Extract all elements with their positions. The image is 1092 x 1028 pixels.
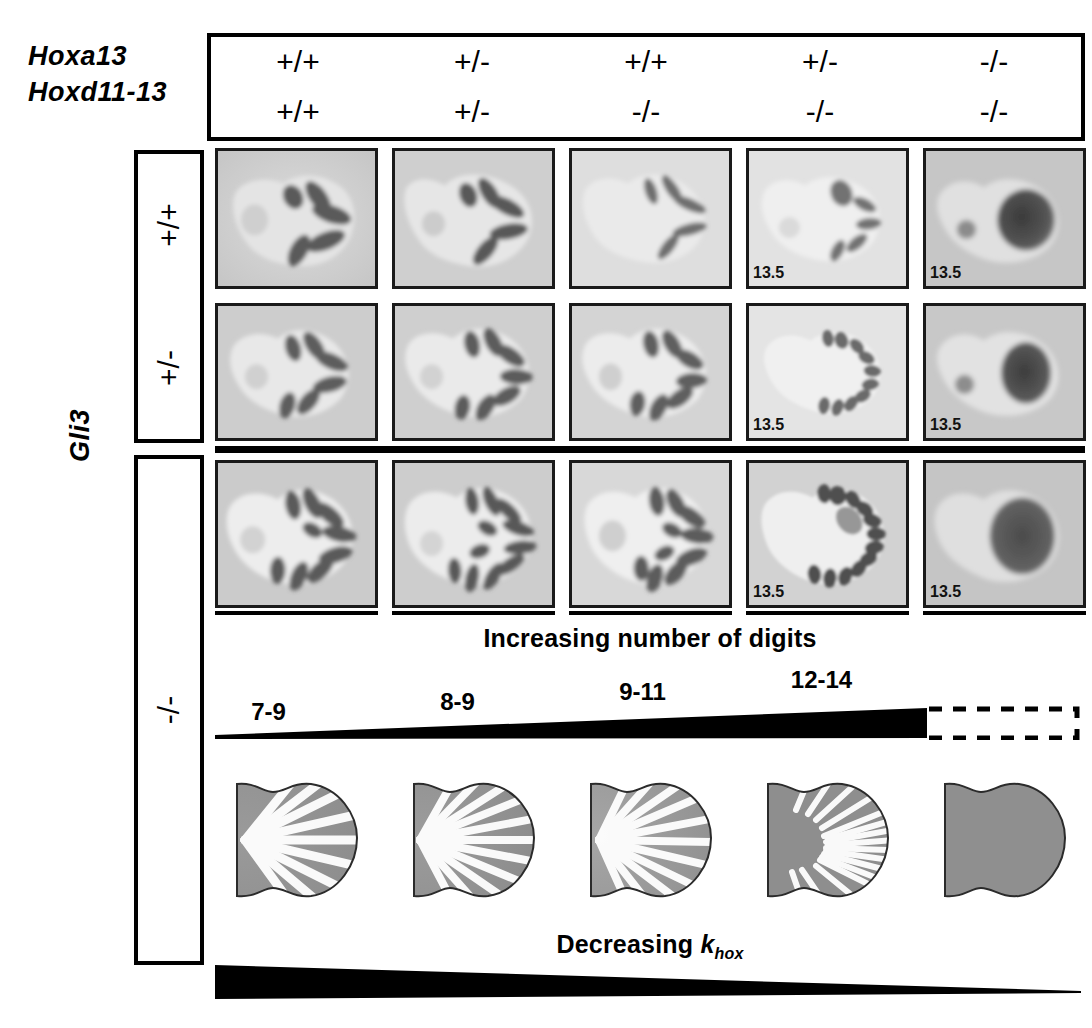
khox-symbol: k: [700, 930, 714, 958]
genotype-header-grid: +/+ +/- +/+ +/- -/- +/+ +/- -/- -/- -/-: [211, 37, 1081, 137]
gli3-row-label-het-text: +/-: [154, 350, 184, 386]
digits-caption: Increasing number of digits: [215, 624, 1085, 653]
limb-panel-r3c3: [569, 460, 732, 608]
limb-panel-r2c4: 13.5: [746, 303, 909, 441]
gene-label-hoxa13: Hoxa13: [28, 38, 208, 74]
stage-label-r3c5: 13.5: [930, 583, 961, 601]
genotype-hoxd-col4: -/-: [806, 97, 834, 127]
limb-panel-r1c3: [569, 148, 732, 289]
genotype-hoxd-col2: +/-: [454, 97, 490, 127]
stage-label-r3c4: 13.5: [753, 583, 784, 601]
stage-label-r1c4: 13.5: [753, 264, 784, 282]
gli3-row-label-wt: +/+: [138, 154, 200, 297]
khox-caption: Decreasing khox: [215, 930, 1085, 963]
simulation-panel-2: [392, 752, 555, 920]
decreasing-khox-wedge: [215, 963, 1085, 1007]
gli3-row-label-het: +/-: [138, 297, 200, 440]
simulation-panel-1: [215, 752, 378, 920]
column-underline-5: [923, 611, 1086, 615]
genotype-hoxa13-col5: -/-: [980, 47, 1008, 77]
stage-label-r1c5: 13.5: [930, 264, 961, 282]
increasing-digits-wedge: [215, 694, 1085, 740]
gene-row-labels: Hoxa13 Hoxd11-13: [28, 38, 208, 110]
simulation-row: [215, 752, 1085, 920]
simulation-panel-4: [746, 752, 909, 920]
column-underlines: [215, 611, 1085, 615]
limb-panel-r3c1: [215, 460, 378, 608]
gli3-axis-label-text: Gli3: [66, 408, 97, 461]
separator-rule-below-row2: [215, 446, 1085, 453]
limb-panel-r2c3: [569, 303, 732, 441]
genotype-hoxd-col5: -/-: [980, 97, 1008, 127]
stage-label-r2c4: 13.5: [753, 416, 784, 434]
simulation-panel-3: [569, 752, 732, 920]
limb-panel-r2c5: 13.5: [923, 303, 1086, 441]
column-underline-2: [392, 611, 555, 615]
limb-panel-r2c1: [215, 303, 378, 441]
limb-panel-r3c4: 13.5: [746, 460, 909, 608]
figure-root: Hoxa13 Hoxd11-13 +/+ +/- +/+ +/- -/- +/+…: [0, 0, 1092, 1028]
limb-panel-r1c5: 13.5: [923, 148, 1086, 289]
panel-row-gli3-wt: 13.5 13.5: [215, 148, 1085, 289]
column-underline-4: [746, 611, 909, 615]
column-underline-3: [569, 611, 732, 615]
gli3-axis-label: Gli3: [36, 380, 126, 490]
limb-panel-r2c2: [392, 303, 555, 441]
genotype-hoxa13-col3: +/+: [624, 47, 667, 77]
limb-panel-r3c2: [392, 460, 555, 608]
panel-row-gli3-het: 13.5 13.5: [215, 303, 1085, 441]
genotype-hoxd-col3: -/-: [632, 97, 660, 127]
genotype-header-box: +/+ +/- +/+ +/- -/- +/+ +/- -/- -/- -/-: [207, 33, 1085, 141]
gli3-row-label-null-text: -/-: [154, 696, 184, 724]
khox-caption-prefix: Decreasing: [556, 930, 700, 958]
khox-subscript: hox: [715, 945, 744, 962]
genotype-hoxa13-col4: +/-: [802, 47, 838, 77]
limb-panel-r3c5: 13.5: [923, 460, 1086, 608]
limb-panel-r1c2: [392, 148, 555, 289]
gli3-row-label-wt-text: +/+: [154, 204, 184, 247]
genotype-hoxa13-col1: +/+: [276, 47, 319, 77]
genotype-hoxd-col1: +/+: [276, 97, 319, 127]
panel-row-gli3-null: 13.5 13.5: [215, 460, 1085, 608]
limb-panel-r1c4: 13.5: [746, 148, 909, 289]
limb-panel-r1c1: [215, 148, 378, 289]
stage-label-r2c5: 13.5: [930, 416, 961, 434]
digit-count-col4: 12-14: [740, 666, 903, 694]
gene-label-hoxd11-13: Hoxd11-13: [28, 74, 208, 110]
column-underline-1: [215, 611, 378, 615]
gli3-genotype-box-upper: +/+ +/-: [134, 150, 204, 443]
genotype-hoxa13-col2: +/-: [454, 47, 490, 77]
simulation-panel-5: [923, 752, 1086, 920]
